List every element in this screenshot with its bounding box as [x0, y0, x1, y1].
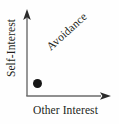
filled-circle-icon: [33, 79, 42, 88]
x-axis-label: Other Interest: [0, 105, 119, 117]
y-axis-label: Self-Interest: [6, 0, 18, 110]
arrow-right-icon: [100, 92, 111, 100]
conflict-style-diagram: Self-Interest Other Interest Avoidance: [0, 0, 119, 124]
